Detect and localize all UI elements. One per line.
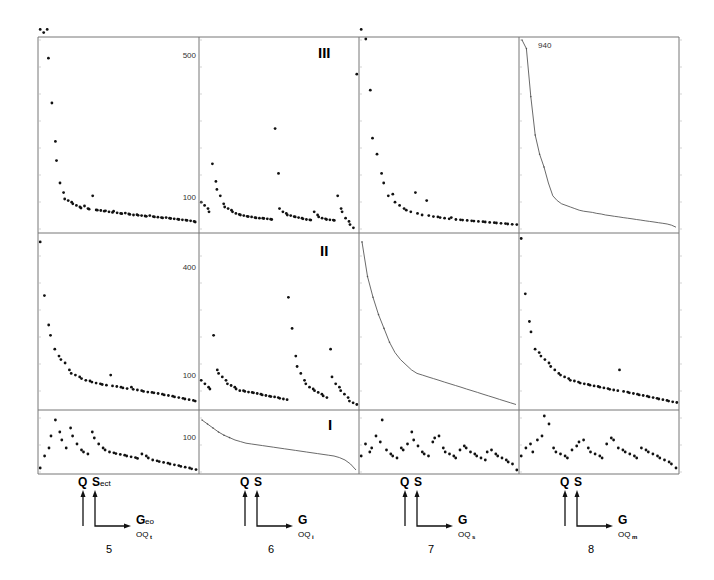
data-point [82,451,85,454]
data-point [70,372,73,375]
data-point [286,398,289,401]
data-point [129,213,132,216]
data-point [648,396,651,399]
data-point [165,216,168,219]
data-point [296,365,299,368]
data-point [99,209,102,212]
arrow-corner-s-g [417,495,448,526]
data-point [632,392,635,395]
data-point [589,451,592,454]
data-point [71,202,74,205]
panel-8-III [521,39,676,227]
data-point [355,73,358,76]
data-point [62,191,65,194]
data-point [112,210,115,213]
series-line [522,40,676,227]
axis-label-g: G [298,513,307,527]
data-point [477,220,480,223]
data-point [189,219,192,222]
arrow-head-icon [563,490,568,497]
data-point [221,376,224,379]
data-point [352,401,355,404]
data-point [157,392,160,395]
data-point [217,372,220,375]
data-point [571,449,574,452]
data-point [553,369,556,372]
panel-7-I [360,419,518,472]
data-point [194,221,197,224]
data-point [524,292,527,295]
data-point [96,209,99,212]
data-point [102,447,105,450]
row-label-III: III [318,44,331,61]
data-point [352,226,355,229]
data-point [675,467,678,470]
data-point [396,457,399,460]
data-point [675,401,678,404]
data-point [104,209,107,212]
data-point [227,207,230,210]
data-point [668,461,671,464]
arrow-head-icon [81,490,86,497]
panel-6-III [200,73,358,229]
axis-label-q: Q [240,475,249,489]
data-point [178,218,181,221]
data-point [520,455,523,458]
data-point [563,376,566,379]
data-point [617,447,620,450]
arrow-head-icon [93,490,98,497]
data-point [469,451,472,454]
data-point [291,327,294,330]
data-point [507,461,510,464]
data-point [540,355,543,358]
data-point [640,447,643,450]
data-point [633,455,636,458]
series-line [362,242,516,405]
data-point [605,443,608,446]
data-point [80,377,83,380]
data-point [294,355,297,358]
data-point [652,396,655,399]
data-point [564,455,567,458]
data-point [579,382,582,385]
data-point [566,457,569,460]
data-point [529,443,532,446]
data-point [381,419,384,422]
data-point [480,457,483,460]
data-point [124,212,127,215]
data-point [222,202,225,205]
data-point [226,382,229,385]
panel-8-I [520,415,678,470]
axis-label-q: Q [560,475,569,489]
data-point [321,217,324,220]
axis-legend-7: QSGOQs7 [400,475,476,555]
column-number-label: 6 [268,543,274,555]
data-point [530,331,533,334]
data-point [598,455,601,458]
data-point [84,379,87,382]
data-point [326,396,329,399]
data-point [406,443,409,446]
data-point [242,214,245,217]
data-point [108,210,111,213]
data-point [652,453,655,456]
data-point [204,382,207,385]
data-point [247,215,250,218]
axis-label-g-sub: eo [145,517,154,526]
arrow-head-icon [243,490,248,497]
data-point [548,423,551,426]
data-point [466,219,469,222]
data-point [173,396,176,399]
data-point [444,451,447,454]
data-point [531,451,534,454]
data-point [151,459,154,462]
annotation-940: 940 [538,41,552,50]
data-point [642,394,645,397]
axis-label-s: S [414,475,422,489]
data-point [459,449,462,452]
data-point [402,449,405,452]
data-point [416,212,419,215]
data-point [132,214,135,217]
data-point [282,210,285,213]
axis-label-s: S [254,475,262,489]
